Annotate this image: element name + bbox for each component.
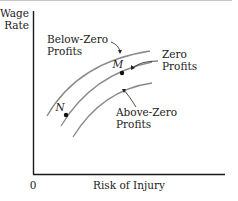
y-axis-label-line1: Wage [0, 7, 29, 19]
below-zero-label-line2: Profits [47, 45, 82, 57]
origin-label: 0 [30, 179, 37, 191]
zero-label-line2: Profits [162, 60, 197, 72]
arrowhead-below-zero [118, 50, 122, 54]
arrow-zero [133, 61, 158, 68]
isoprofit-diagram: Wage Rate 0 Risk of Injury M N Below-Zer… [0, 0, 238, 201]
above-zero-label-line1: Above-Zero [115, 106, 177, 118]
point-n [64, 113, 68, 117]
below-zero-label-line1: Below-Zero [47, 33, 108, 45]
above-zero-label-line2: Profits [116, 118, 151, 130]
point-m [120, 71, 124, 75]
x-axis-label: Risk of Injury [93, 179, 165, 191]
y-axis-label-line2: Rate [4, 19, 29, 31]
point-n-label: N [54, 101, 65, 113]
arrow-above-zero [124, 90, 136, 107]
point-m-label: M [112, 58, 124, 70]
zero-label-line1: Zero [162, 48, 187, 60]
arrowhead-zero [131, 65, 135, 70]
